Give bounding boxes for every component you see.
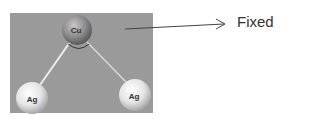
arrow-line [125,24,224,29]
ag-left-label: Ag [27,95,38,104]
fixed-annotation: Fixed [237,13,274,30]
ag-right-label: Ag [129,92,140,101]
bond-right [87,42,126,82]
cu-label: Cu [71,26,82,35]
bond-left [40,42,70,85]
